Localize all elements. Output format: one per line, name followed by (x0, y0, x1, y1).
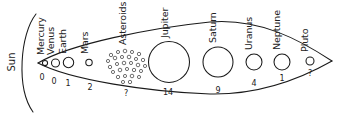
moons-mercury: 0 (39, 73, 44, 82)
sun-label: Sun (6, 52, 17, 71)
sun-arc-icon (22, 14, 36, 112)
moons-earth: 1 (65, 79, 70, 88)
label-saturn: Saturn (207, 12, 218, 43)
body-asteroids[interactable] (106, 49, 146, 84)
moons-pluto: ? (308, 69, 312, 78)
body-earth[interactable] (63, 57, 73, 67)
sun-group: Sun (6, 14, 36, 112)
body-jupiter[interactable] (149, 42, 190, 83)
diagram-canvas: Sun (0, 0, 339, 122)
label-venus: Venus (45, 27, 56, 55)
label-earth: Earth (57, 29, 68, 54)
moons-mars: 2 (87, 83, 92, 92)
moons-uranus: 4 (251, 79, 256, 88)
label-pluto: Pluto (299, 28, 310, 52)
body-saturn[interactable] (203, 47, 233, 77)
label-asteroids: Asteroids (117, 2, 128, 45)
label-jupiter: Jupiter (159, 8, 170, 39)
body-mars[interactable] (86, 59, 92, 65)
moons-asteroids: ? (124, 89, 128, 98)
body-mercury[interactable] (42, 60, 47, 65)
moons-saturn: 9 (215, 86, 220, 95)
label-uranus: Uranus (243, 17, 254, 50)
moons-neptune: 1 (279, 74, 284, 83)
label-neptune: Neptune (271, 10, 282, 50)
body-pluto[interactable] (306, 57, 314, 65)
body-uranus[interactable] (246, 54, 262, 70)
moons-jupiter: 14 (163, 88, 173, 97)
label-mars: Mars (79, 31, 90, 54)
body-neptune[interactable] (274, 54, 290, 70)
moons-venus: 0 (51, 77, 56, 86)
body-venus[interactable] (52, 59, 60, 67)
solar-system-diagram: Sun (0, 0, 339, 122)
